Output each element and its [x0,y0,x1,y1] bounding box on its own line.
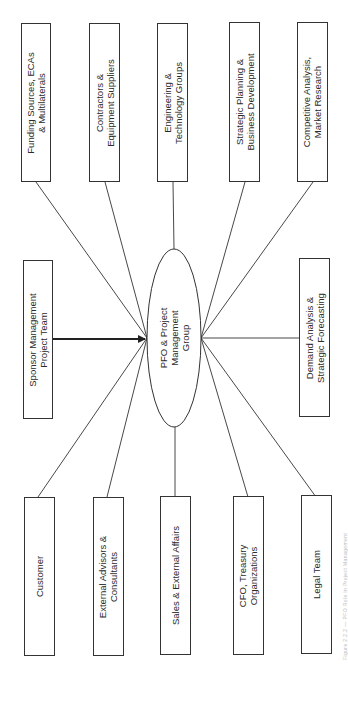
node-label: Competitive Analysis, Market Research [302,57,324,147]
node-label: Demand Analysis & Strategic Forecasting [304,293,326,383]
connector-engineering [173,182,174,249]
hub-label: PFO & Project Management Group [158,308,191,369]
node-label: Sales & External Affairs [170,526,181,625]
node-funding-sources: Funding Sources, ECAs & Multilaterals [21,23,51,182]
node-contractors: Contractors & Equipment Suppliers [89,23,120,182]
figure-caption: Figure 2.2.2 — PFO Role in Project Manag… [342,533,348,660]
node-cfo-treasury: CFO, Treasury Organizations [233,496,264,655]
node-label: External Advisors & Consultants [98,535,120,617]
node-label: Strategic Planning & Business Developmen… [234,53,256,150]
node-label: Funding Sources, ECAs & Multilaterals [25,52,47,153]
connector-contractors [105,182,147,338]
node-label: Contractors & Equipment Suppliers [94,59,116,147]
connector-customer [38,338,147,497]
node-label: Customer [34,556,45,597]
node-label: Legal Team [311,550,322,599]
node-sponsor-management: Sponsor Management Project Team [23,260,53,419]
node-strategic-planning: Strategic Planning & Business Developmen… [229,22,260,182]
node-external-advisors: External Advisors & Consultants [93,497,124,656]
node-sales-external-affairs: Sales & External Affairs [160,496,191,655]
node-label: Engineering & Technology Groups [162,62,184,144]
connector-strategic [201,182,245,338]
node-demand-analysis: Demand Analysis & Strategic Forecasting [299,258,330,417]
connector-advisors [107,338,147,497]
node-label: Sponsor Management Project Team [27,293,49,386]
node-competitive-analysis: Competitive Analysis, Market Research [297,22,328,182]
connector-cfo [201,338,248,497]
node-customer: Customer [24,497,55,656]
node-engineering: Engineering & Technology Groups [157,23,188,182]
node-legal-team: Legal Team [301,495,332,654]
node-label: CFO, Treasury Organizations [238,544,260,606]
connector-competitive [201,182,313,338]
